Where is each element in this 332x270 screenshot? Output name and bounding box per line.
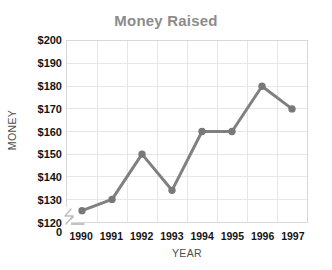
y-axis-tick-200: $200 — [8, 34, 62, 46]
x-axis-tick-1996: 1996 — [251, 230, 274, 242]
x-axis-tick-1991: 1991 — [100, 230, 123, 242]
line-series — [67, 41, 307, 222]
y-axis-tick-190: $190 — [8, 57, 62, 69]
chart-container: Money Raised $200$190$180$170$160$150$14… — [0, 0, 332, 270]
x-axis-tick-1992: 1992 — [130, 230, 153, 242]
y-axis-tick-180: $180 — [8, 80, 62, 92]
x-axis-tick-1993: 1993 — [160, 230, 183, 242]
y-axis-tick-130: $130 — [8, 194, 62, 206]
x-axis-tick-1995: 1995 — [221, 230, 244, 242]
axis-break-icon — [62, 207, 84, 227]
x-axis-tick-labels: 19901991199219931994199519961997 — [66, 230, 308, 246]
y-axis-title: MONEY — [6, 100, 18, 160]
y-axis-tick-0: 0 — [8, 226, 62, 238]
x-axis-title: YEAR — [66, 247, 308, 259]
y-axis-tick-140: $140 — [8, 171, 62, 183]
plot-area — [66, 40, 308, 223]
x-axis-tick-1994: 1994 — [190, 230, 213, 242]
x-axis-tick-1997: 1997 — [281, 230, 304, 242]
x-axis-tick-1990: 1990 — [69, 230, 92, 242]
